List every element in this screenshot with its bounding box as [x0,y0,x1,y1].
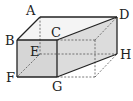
label-c: C [51,25,61,40]
label-f: F [6,70,15,85]
label-b: B [5,33,15,48]
label-e: E [30,44,40,59]
label-d: D [119,7,129,22]
prism-diagram: A B C D E F G H [0,0,133,101]
label-h: H [120,47,131,62]
label-g: G [52,79,62,94]
label-a: A [25,3,36,18]
